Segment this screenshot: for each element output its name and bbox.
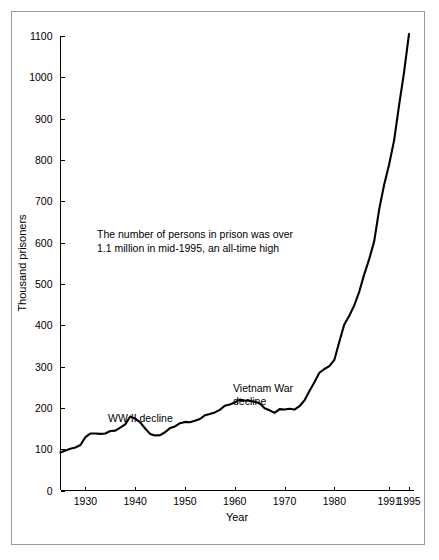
y-tick-label: 1000 <box>29 71 53 83</box>
y-tick-label: 600 <box>35 237 53 249</box>
x-tick-label: 1930 <box>74 495 98 507</box>
vietnam-decline-label-line-1: Vietnam War <box>233 382 294 394</box>
y-axis-ticks: 010020030040050060070080090010001100 <box>29 30 64 497</box>
wwii-decline-label: WW II decline <box>108 412 173 424</box>
y-tick-label: 100 <box>35 443 53 455</box>
x-tick-label: 1970 <box>273 495 297 507</box>
y-tick-label: 200 <box>35 402 53 414</box>
x-axis-ticks: 19301940195019601970198019911995 <box>74 487 421 507</box>
y-tick-label: 1100 <box>30 30 53 42</box>
y-axis-title: Thousand prisoners <box>16 214 28 312</box>
x-tick-label: 1960 <box>223 495 247 507</box>
line-chart: 010020030040050060070080090010001100 193… <box>0 0 439 560</box>
chart-figure: 010020030040050060070080090010001100 193… <box>0 0 439 560</box>
vietnam-decline-label-line-2: decline <box>233 395 266 407</box>
x-tick-label: 1940 <box>124 495 148 507</box>
y-tick-label: 800 <box>35 154 53 166</box>
x-axis-title: Year <box>226 511 249 523</box>
y-tick-label: 900 <box>35 113 53 125</box>
y-tick-label: 0 <box>47 485 53 497</box>
callout-line-2: 1.1 million in mid-1995, an all-time hig… <box>97 242 279 254</box>
y-tick-label: 300 <box>35 361 53 373</box>
y-tick-label: 400 <box>35 319 53 331</box>
x-tick-label: 1995 <box>397 495 421 507</box>
callout-line-1: The number of persons in prison was over <box>97 228 294 240</box>
x-tick-label: 1980 <box>323 495 347 507</box>
y-tick-label: 700 <box>35 195 53 207</box>
x-tick-label: 1950 <box>173 495 197 507</box>
y-tick-label: 500 <box>35 278 53 290</box>
